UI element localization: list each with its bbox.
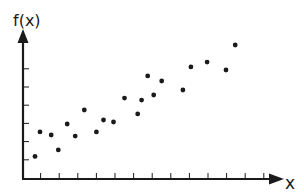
y-axis [18, 29, 30, 179]
data-point [139, 98, 144, 103]
data-point [65, 122, 70, 127]
x-axis [22, 173, 284, 185]
data-point [33, 154, 38, 159]
data-point [94, 130, 99, 135]
data-point [56, 148, 61, 153]
y-axis-arrow-icon [18, 29, 29, 43]
data-point [233, 43, 238, 48]
data-point [101, 118, 106, 123]
y-axis-label: f(x) [13, 11, 41, 30]
data-point [181, 88, 186, 93]
scatter-chart: f(x) x [0, 0, 304, 195]
data-point [122, 96, 127, 101]
x-axis-arrow-icon [269, 174, 284, 185]
data-point [145, 74, 150, 79]
data-point [205, 60, 210, 65]
data-point [135, 112, 140, 117]
data-point [49, 133, 54, 138]
data-point [224, 68, 229, 73]
x-axis-label: x [285, 173, 295, 193]
data-point [38, 130, 43, 135]
data-point [111, 120, 116, 125]
data-point [73, 134, 78, 139]
data-point [82, 108, 87, 113]
data-point [189, 65, 194, 70]
data-point [151, 93, 156, 98]
data-point [159, 79, 164, 84]
data-points [33, 43, 238, 159]
